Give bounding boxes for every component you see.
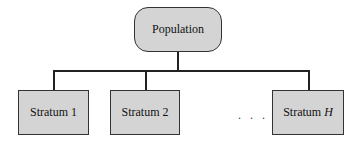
connector-stratum-1 (53, 70, 55, 90)
stratum-1-node: Stratum 1 (18, 90, 89, 135)
stratum-h-label-text: Stratum (283, 105, 324, 119)
stratum-h-symbol: H (324, 105, 333, 119)
stratum-h-node: Stratum H (272, 90, 344, 135)
ellipsis: . . . (238, 108, 268, 123)
connector-horizontal (53, 70, 309, 72)
stratum-h-label: Stratum H (283, 105, 333, 120)
population-label: Population (152, 22, 204, 37)
connector-root-vertical (177, 52, 179, 71)
connector-stratum-2 (145, 70, 147, 90)
stratum-2-node: Stratum 2 (110, 90, 180, 135)
stratum-2-label: Stratum 2 (122, 105, 169, 120)
stratum-1-label: Stratum 1 (30, 105, 77, 120)
connector-stratum-h (308, 70, 310, 90)
population-node: Population (134, 7, 222, 52)
